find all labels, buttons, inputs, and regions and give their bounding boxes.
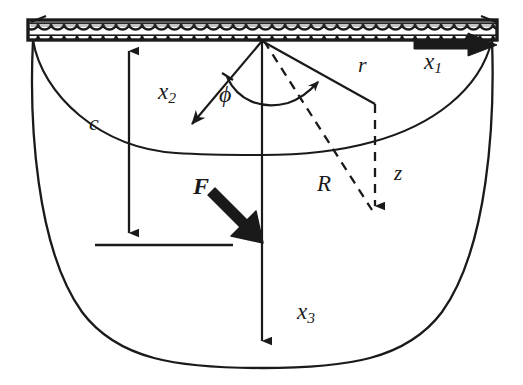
label-F: F xyxy=(193,174,209,198)
label-r: r xyxy=(358,54,367,76)
label-x2: x2 xyxy=(158,80,176,106)
label-R: R xyxy=(317,172,331,195)
label-z: z xyxy=(394,163,402,184)
label-x3: x3 xyxy=(297,300,315,326)
hatched-boundary-bar xyxy=(28,20,497,40)
label-x1: x1 xyxy=(424,50,442,76)
phi-angle-arc xyxy=(222,73,318,105)
diagram-svg xyxy=(0,0,523,385)
figure-canvas: x1 x2 x3 ϕ c r R z F xyxy=(0,0,523,385)
label-c: c xyxy=(89,112,99,134)
label-phi: ϕ xyxy=(219,82,231,106)
force-vector-arrow xyxy=(208,188,263,243)
